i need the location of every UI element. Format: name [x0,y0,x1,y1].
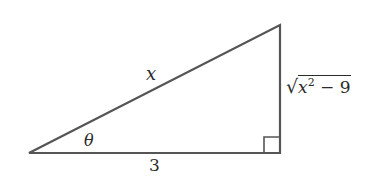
opposite-side-label: √ x2 − 9 [286,75,351,96]
adjacent-side-label: 3 [149,157,160,174]
radicand: x2 − 9 [298,75,350,96]
radical-sign: √ [286,77,298,96]
hypotenuse-label: x [146,65,156,83]
radicand-constant: − 9 [315,77,351,97]
radicand-exponent: 2 [308,76,315,89]
right-angle-marker [264,137,280,153]
triangle-outline [29,25,280,153]
right-triangle-diagram: x θ 3 √ x2 − 9 [0,0,383,180]
angle-theta-label: θ [84,133,94,149]
radicand-variable: x [298,77,308,97]
